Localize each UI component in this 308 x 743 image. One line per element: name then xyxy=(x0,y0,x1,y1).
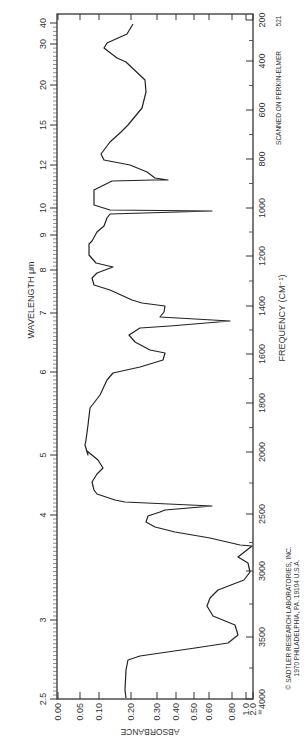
absorbance-tick-label: 0.05 xyxy=(75,703,85,721)
frequency-tick-label: 400 xyxy=(257,53,267,68)
ir-spectrum-chart: 2004006008001000120014001600180020002500… xyxy=(0,0,308,743)
absorbance-tick-label: 0.80 xyxy=(227,703,237,721)
wavelength-tick-label: 15 xyxy=(38,120,48,130)
wavelength-tick-label: 20 xyxy=(38,80,48,90)
wavelength-tick-label: 30 xyxy=(38,39,48,49)
absorbance-axis-ticks: 0.000.050.100.200.300.400.500.600.801.02… xyxy=(53,14,258,721)
wavelength-tick-label: 10 xyxy=(38,203,48,213)
wavelength-tick-label: 2.5 xyxy=(38,693,48,706)
wavelength-tick-label: 40 xyxy=(38,18,48,28)
wavelength-tick-label: 3 xyxy=(38,617,48,622)
frequency-axis-ticks: 2004006008001000120014001600180020002500… xyxy=(246,12,267,709)
frequency-tick-label: 2500 xyxy=(257,504,267,524)
instrument-note: SCANNED ON PERKIN-ELMER xyxy=(275,51,282,145)
wavelength-axis-ticks: 40302015121098765432.5 xyxy=(38,18,57,705)
wavelength-tick-label: 9 xyxy=(38,232,48,237)
frequency-tick-label: 4000 xyxy=(257,689,267,709)
frequency-tick-label: 800 xyxy=(257,151,267,166)
frequency-tick-label: 600 xyxy=(257,102,267,117)
chart-number: 521 xyxy=(275,15,282,26)
absorbance-tick-label: 0.00 xyxy=(53,703,63,721)
absorbance-axis-label: ABSORBANCE xyxy=(120,727,179,737)
frequency-tick-label: 1400 xyxy=(257,296,267,316)
absorbance-tick-label: 0.30 xyxy=(152,703,162,721)
absorbance-tick-label: 0.40 xyxy=(171,703,181,721)
frequency-tick-label: 1600 xyxy=(257,344,267,364)
absorbance-tick-label: 0.20 xyxy=(126,703,136,721)
wavelength-tick-label: 4 xyxy=(38,512,48,517)
absorbance-tick-label: 0.50 xyxy=(189,703,199,721)
frequency-tick-label: 1200 xyxy=(257,246,267,266)
frequency-tick-label: 3000 xyxy=(257,561,267,581)
wavelength-tick-label: 6 xyxy=(38,369,48,374)
plot-frame xyxy=(57,14,253,699)
frequency-axis-label: FREQUENCY (CM⁻¹) xyxy=(277,275,287,362)
frequency-tick-label: 1800 xyxy=(257,393,267,413)
copyright-line-1: © SADTLER RESEARCH LABORATORIES, INC. xyxy=(285,546,292,689)
wavelength-tick-label: 7 xyxy=(38,310,48,315)
frequency-tick-label: 200 xyxy=(257,12,267,27)
spectrum-line xyxy=(85,24,252,698)
wavelength-tick-label: 12 xyxy=(38,160,48,170)
absorbance-tick-label: 0.10 xyxy=(94,703,104,721)
wavelength-tick-label: 8 xyxy=(38,267,48,272)
wavelength-tick-label: 5 xyxy=(38,452,48,457)
absorbance-tick-label: 0.60 xyxy=(204,703,214,721)
frequency-tick-label: 3500 xyxy=(257,627,267,647)
infinity-symbol: ∞ xyxy=(256,710,263,715)
frequency-tick-label: 1000 xyxy=(257,198,267,218)
wavelength-axis-label: WAVELENGTH μm xyxy=(26,261,36,338)
frequency-tick-label: 2000 xyxy=(257,442,267,462)
copyright-line-2: 1970 PHILADELPHIA, PA. 19104 U.S.A. xyxy=(293,559,300,676)
